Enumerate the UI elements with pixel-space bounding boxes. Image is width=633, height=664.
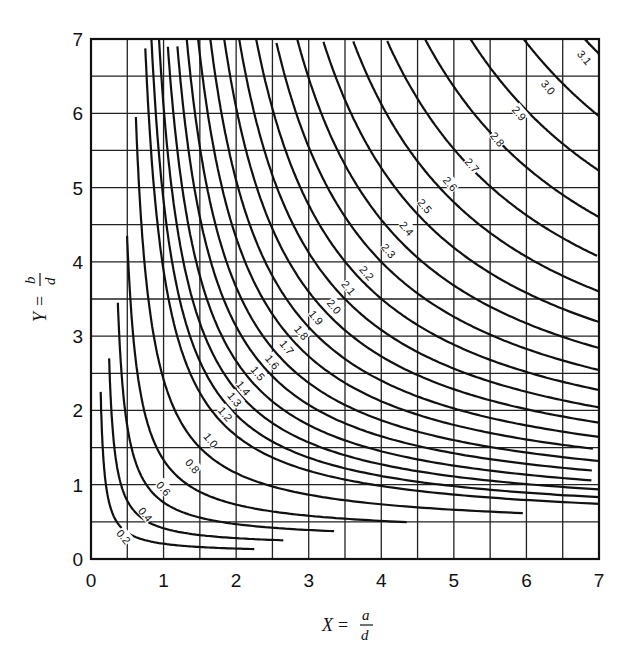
y-axis-ticks: 01234567 [72, 29, 83, 570]
y-axis-var: Y [30, 310, 50, 322]
contour-label: 2.4 [397, 219, 416, 238]
x-tick-label: 7 [594, 570, 605, 591]
y-tick-label: 6 [72, 103, 83, 124]
y-tick-label: 1 [72, 475, 83, 496]
x-tick-label: 2 [231, 570, 242, 591]
contour-curve-2.7 [387, 41, 597, 256]
x-tick-label: 4 [376, 570, 387, 591]
contour-label: 1.2 [216, 404, 235, 423]
y-axis-eq: = [30, 296, 50, 306]
x-axis-label: X = a d [321, 607, 373, 643]
contour-label: 2.7 [462, 156, 481, 175]
x-axis-var: X [321, 615, 334, 635]
y-tick-label: 5 [72, 178, 83, 199]
x-tick-label: 6 [521, 570, 532, 591]
y-tick-label: 2 [72, 400, 83, 421]
contour-label: 3.1 [575, 48, 594, 67]
contour-curve-1.3 [151, 39, 599, 497]
x-tick-label: 0 [86, 570, 97, 591]
contour-chart: 0.20.40.60.81.01.21.31.41.51.61.71.81.92… [0, 0, 633, 664]
x-axis-denominator: d [361, 627, 369, 643]
y-tick-label: 3 [72, 326, 83, 347]
contour-label: 0.2 [114, 527, 133, 546]
y-tick-label: 0 [72, 549, 83, 570]
x-axis-ticks: 01234567 [86, 570, 605, 591]
x-axis-eq: = [338, 615, 348, 635]
y-axis-label: Y = b d [22, 273, 58, 322]
y-axis-denominator: d [42, 277, 58, 285]
y-tick-label: 7 [72, 29, 83, 50]
x-axis-numerator: a [362, 607, 370, 623]
x-tick-label: 1 [158, 570, 169, 591]
x-tick-label: 3 [303, 570, 314, 591]
y-tick-label: 4 [72, 252, 83, 273]
contour-label: 0.6 [154, 479, 173, 498]
y-axis-numerator: b [22, 276, 38, 284]
contour-label: 3.0 [539, 78, 558, 97]
x-tick-label: 5 [449, 570, 460, 591]
